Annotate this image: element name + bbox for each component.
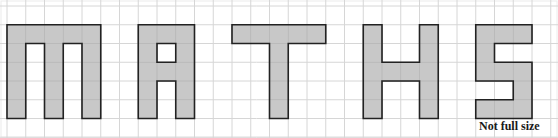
letter-cell [363, 25, 382, 44]
letter-cell [7, 100, 26, 119]
letter-cell [176, 62, 195, 81]
letter-cell [420, 81, 439, 100]
letter-cell [476, 100, 495, 119]
letter-cell [476, 62, 495, 81]
letter-cell [363, 81, 382, 100]
letter-cell [288, 25, 307, 44]
letter-cell [513, 81, 532, 100]
letter-cell [45, 25, 64, 44]
letter-cell [363, 62, 382, 81]
letter-cell [7, 25, 26, 44]
letter-cell [251, 25, 270, 44]
letter-cell [476, 44, 495, 63]
letter-cell [138, 81, 157, 100]
letter-cell [513, 62, 532, 81]
letter-cell [495, 62, 514, 81]
letter-cell [157, 25, 176, 44]
letter-cell [176, 44, 195, 63]
letter-cell [401, 62, 420, 81]
letter-cell [176, 25, 195, 44]
letter-cell [382, 62, 401, 81]
letter-cell [138, 44, 157, 63]
letter-cell [176, 100, 195, 119]
letter-cell [45, 81, 64, 100]
letter-a [138, 25, 195, 119]
letter-cell [270, 25, 289, 44]
letter-cell [270, 81, 289, 100]
letter-cell [7, 81, 26, 100]
letter-cell [45, 44, 64, 63]
letter-cell [26, 25, 45, 44]
letter-cell [420, 100, 439, 119]
letter-cell [420, 62, 439, 81]
letter-t [232, 25, 326, 119]
letter-cell [82, 25, 101, 44]
letter-cell [82, 81, 101, 100]
letter-cell [420, 25, 439, 44]
letter-cell [45, 100, 64, 119]
letter-cell [307, 25, 326, 44]
letter-cell [45, 62, 64, 81]
letter-cell [420, 44, 439, 63]
letter-cell [63, 25, 82, 44]
letter-cell [363, 44, 382, 63]
letter-cell [476, 25, 495, 44]
letter-cell [138, 62, 157, 81]
letter-cell [82, 62, 101, 81]
letter-cell [513, 100, 532, 119]
letter-m [7, 25, 101, 119]
letter-cell [176, 81, 195, 100]
maths-grid-diagram [0, 0, 558, 138]
letter-cell [513, 25, 532, 44]
letter-cell [270, 100, 289, 119]
letter-cell [138, 25, 157, 44]
letter-cell [495, 100, 514, 119]
not-full-size-caption: Not full size [479, 119, 540, 134]
letter-cell [270, 44, 289, 63]
letter-cell [138, 100, 157, 119]
letter-cell [7, 44, 26, 63]
letter-cell [270, 62, 289, 81]
letter-s [476, 25, 533, 119]
letter-cell [495, 25, 514, 44]
letter-cell [7, 62, 26, 81]
letters [7, 25, 533, 119]
letter-cell [157, 62, 176, 81]
letter-cell [363, 100, 382, 119]
letter-cell [82, 44, 101, 63]
letter-cell [232, 25, 251, 44]
letter-cell [82, 100, 101, 119]
